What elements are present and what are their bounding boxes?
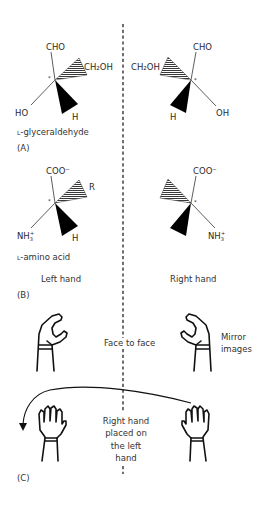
- stereocenter-mark: *: [48, 75, 51, 81]
- group-ho: HO: [15, 108, 28, 118]
- stereocenter-mark: *: [48, 198, 51, 204]
- solid-wedge: [170, 80, 191, 113]
- svg-text:hand: hand: [115, 453, 136, 463]
- molecule-name: L-amino acid: [17, 252, 70, 262]
- mirror-images-caption-line1: Mirror: [221, 332, 247, 342]
- right-hand-open-icon: [182, 406, 209, 461]
- right-hand-cupped-icon: [181, 314, 211, 371]
- group-coo: COO⁻: [193, 166, 217, 176]
- hatched-wedge: [55, 58, 87, 80]
- group-cho: CHO: [193, 42, 212, 52]
- panel-label-c: (C): [17, 473, 30, 483]
- solid-wedge: [170, 203, 191, 236]
- group-coo: COO⁻: [46, 166, 70, 176]
- left-hand-caption: Left hand: [41, 274, 81, 284]
- solid-wedge: [55, 80, 78, 114]
- hatched-wedge: [160, 179, 191, 203]
- group-oh: OH: [216, 108, 229, 118]
- face-to-face-caption: Face to face: [104, 338, 155, 348]
- left-hand-open-icon: [39, 406, 66, 461]
- glyceraldehyde-right-structure: CHO * CH₂OH OH H: [131, 42, 229, 122]
- group-h: H: [72, 233, 78, 243]
- svg-text:Right hand: Right hand: [103, 416, 149, 426]
- stereocenter-mark: *: [194, 77, 197, 83]
- amino-acid-left-structure: COO⁻ * R NH3+ H L-amino acid Left hand (…: [17, 166, 95, 300]
- right-hand-caption: Right hand: [170, 274, 216, 284]
- group-nh3: NH3+: [17, 230, 34, 242]
- right-hand-placed-caption: Right hand placed on the left hand: [103, 416, 149, 463]
- svg-text:placed on: placed on: [105, 428, 147, 438]
- solid-wedge: [55, 203, 78, 236]
- svg-text:the left: the left: [111, 441, 142, 451]
- amino-acid-right-structure: COO⁻ * NH3+ Right hand: [160, 166, 225, 284]
- group-ch2oh: CH₂OH: [131, 62, 160, 72]
- mirror-images-caption-line2: images: [221, 344, 252, 354]
- group-r: R: [89, 182, 95, 192]
- hatched-wedge: [160, 57, 191, 80]
- panel-label-b: (B): [17, 290, 29, 300]
- stereocenter-mark: *: [194, 199, 197, 205]
- left-hand-cupped-icon: [37, 314, 67, 371]
- hatched-wedge: [55, 180, 87, 203]
- group-h: H: [72, 112, 78, 122]
- glyceraldehyde-left-structure: CHO * CH₂OH HO H L-glyceraldehyde (A): [15, 42, 113, 153]
- group-cho: CHO: [46, 42, 65, 52]
- molecule-name: L-glyceraldehyde: [17, 127, 89, 137]
- group-ch2oh: CH₂OH: [84, 62, 113, 72]
- group-h: H: [170, 112, 176, 122]
- group-nh3: NH3+: [208, 230, 225, 242]
- chirality-diagram: CHO * CH₂OH HO H L-glyceraldehyde (A) CH…: [0, 0, 261, 507]
- panel-label-a: (A): [17, 143, 29, 153]
